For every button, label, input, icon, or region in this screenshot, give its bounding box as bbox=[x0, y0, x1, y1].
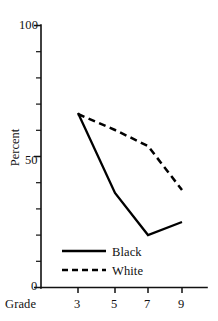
line-chart: 100 50 0 Percent Grade 3 5 7 9 Black Whi… bbox=[0, 0, 218, 321]
legend-label-black: Black bbox=[112, 246, 142, 259]
x-axis-title: Grade bbox=[5, 298, 36, 311]
y-axis-title: Percent bbox=[8, 118, 23, 178]
x-tick-label-9: 9 bbox=[178, 298, 184, 311]
y-tick-label-50: 50 bbox=[25, 154, 38, 167]
x-tick-label-3: 3 bbox=[74, 298, 80, 311]
legend bbox=[62, 251, 106, 270]
legend-label-white: White bbox=[112, 265, 143, 278]
x-tick-label-5: 5 bbox=[111, 298, 117, 311]
y-tick-label-100: 100 bbox=[19, 19, 38, 32]
y-tick-label-0: 0 bbox=[31, 280, 37, 293]
series-line-white bbox=[78, 114, 182, 190]
x-tick-label-7: 7 bbox=[144, 298, 150, 311]
x-axis bbox=[41, 288, 207, 294]
series-line-black bbox=[78, 113, 182, 235]
